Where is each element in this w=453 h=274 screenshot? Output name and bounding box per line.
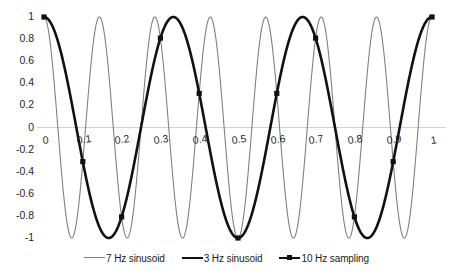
x-tick-label: 0.4 [192, 133, 208, 146]
x-tick-label: 1 [430, 134, 437, 146]
y-tick-label: -1 [8, 232, 34, 243]
sample-marker [352, 214, 357, 219]
sample-marker [429, 14, 434, 19]
legend-swatch-icon [182, 253, 203, 263]
legend-entry[interactable]: 10 Hz sampling [279, 253, 369, 264]
y-tick-label: 0.2 [8, 99, 34, 110]
x-tick-label: 0.9 [386, 133, 402, 146]
sample-marker [119, 214, 124, 219]
x-tick-label: 0.3 [153, 133, 169, 146]
legend-label: 3 Hz sinusoid [204, 253, 263, 264]
sample-marker [235, 235, 240, 240]
y-tick-label: -0.4 [8, 166, 34, 177]
y-tick-label: 0.4 [8, 77, 34, 88]
y-tick-label: 0.8 [8, 33, 34, 44]
x-tick-label: 0 [42, 134, 49, 146]
chart-figure: 10.80.60.40.20-0.2-0.4-0.6-0.8-1 00.10.2… [0, 0, 453, 274]
sample-marker [158, 36, 163, 41]
legend-swatch-icon [84, 253, 105, 263]
y-tick-label: 0.6 [8, 55, 34, 66]
legend-entry[interactable]: 7 Hz sinusoid [84, 253, 165, 264]
y-tick-label: -0.8 [8, 210, 34, 221]
y-tick-label: 1 [8, 11, 34, 22]
plot-canvas [0, 0, 453, 274]
legend-swatch-icon [279, 253, 300, 263]
legend-label: 10 Hz sampling [301, 253, 369, 264]
legend-label: 7 Hz sinusoid [106, 253, 165, 264]
sample-marker [274, 91, 279, 96]
sample-marker [41, 14, 46, 19]
x-tick-label: 0.1 [76, 133, 92, 146]
x-tick-label: 0.7 [308, 133, 324, 146]
x-tick-label: 0.2 [114, 133, 130, 146]
sample-marker [391, 159, 396, 164]
x-tick-label: 0.6 [270, 133, 286, 146]
legend-entry[interactable]: 3 Hz sinusoid [182, 253, 263, 264]
x-tick-label: 0.8 [347, 133, 363, 146]
y-tick-label: -0.6 [8, 188, 34, 199]
sample-marker [80, 159, 85, 164]
x-tick-label: 0.5 [231, 133, 247, 146]
chart-legend: 7 Hz sinusoid3 Hz sinusoid10 Hz sampling [0, 249, 453, 267]
y-tick-label: -0.2 [8, 144, 34, 155]
sample-marker [313, 36, 318, 41]
sample-marker [197, 91, 202, 96]
y-tick-label: 0 [8, 122, 34, 133]
